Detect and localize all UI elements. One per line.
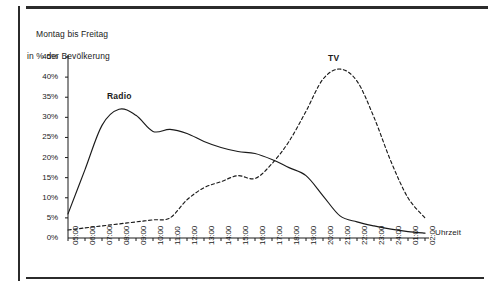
y-tick-label: 40% (32, 72, 58, 81)
x-tick-label: 12:00 (190, 226, 199, 245)
x-tick-label: 01:00 (411, 226, 420, 245)
x-axis-title: Uhrzeit (435, 228, 461, 237)
y-tick-label: 45% (32, 52, 58, 61)
x-tick-label: 22:00 (360, 226, 369, 245)
y-tick-label: 25% (32, 132, 58, 141)
x-tick-label: 13:00 (207, 226, 216, 245)
x-tick-label: 11:00 (173, 227, 182, 245)
chart-figure: Montag bis Freitag in % der Bevölkerung … (0, 0, 491, 288)
x-tick-label: 15:00 (241, 226, 250, 245)
x-tick-label: 06:00 (88, 226, 97, 245)
x-tick-label: 09:00 (139, 226, 148, 245)
x-tick-label: 14:00 (224, 226, 233, 245)
x-tick-label: 19:00 (309, 226, 318, 245)
x-tick-label: 21:00 (343, 226, 352, 245)
x-tick-label: 16:00 (258, 226, 267, 245)
axes (65, 55, 429, 241)
plot-area: 0%5%10%15%20%25%30%35%40%45% 05:0006:000… (0, 0, 491, 288)
x-tick-label: 20:00 (326, 226, 335, 245)
x-tick-label: 24:00 (394, 226, 403, 245)
series-label-tv: TV (328, 53, 339, 63)
x-tick-label: 08:00 (122, 226, 131, 245)
x-tick-label: 17:00 (275, 226, 284, 245)
x-tick-label: 23:00 (377, 226, 386, 245)
x-tick-label: 07:00 (105, 226, 114, 245)
x-tick-label: 10:00 (156, 226, 165, 245)
y-tick-label: 5% (32, 213, 58, 222)
series-label-radio: Radio (107, 91, 132, 101)
y-tick-label: 35% (32, 92, 58, 101)
y-tick-label: 20% (32, 153, 58, 162)
x-tick-label: 18:00 (292, 226, 301, 245)
y-tick-label: 30% (32, 112, 58, 121)
y-tick-label: 15% (32, 173, 58, 182)
series-line-radio (68, 109, 425, 233)
y-tick-label: 10% (32, 193, 58, 202)
y-tick-label: 0% (32, 233, 58, 242)
x-tick-label: 05:00 (71, 226, 80, 245)
